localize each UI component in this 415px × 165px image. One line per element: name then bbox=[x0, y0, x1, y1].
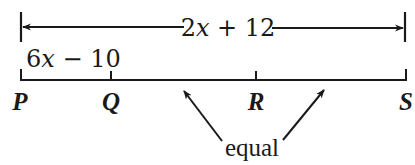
equal-label: equal bbox=[225, 134, 279, 161]
point-label-S: S bbox=[399, 88, 413, 115]
arrow-to-RS-icon bbox=[283, 90, 324, 140]
segment-diagram: 2x + 12 6x − 10 P Q R S equal bbox=[0, 0, 415, 165]
total-length-dimension: 2x + 12 bbox=[21, 12, 405, 42]
point-label-R: R bbox=[247, 88, 265, 115]
arrow-to-QR-icon bbox=[184, 91, 222, 141]
point-label-P: P bbox=[11, 88, 28, 115]
total-length-label: 2x + 12 bbox=[181, 14, 276, 42]
segment-pq-label: 6x − 10 bbox=[26, 45, 121, 73]
point-label-Q: Q bbox=[102, 88, 120, 115]
